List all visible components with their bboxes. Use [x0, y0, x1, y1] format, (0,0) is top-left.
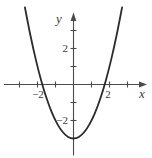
- y-tick-label-pos2: 2: [63, 43, 69, 54]
- x-tick-label-neg2: −2: [32, 89, 44, 100]
- plot-canvas: [0, 0, 152, 158]
- y-axis-arrowhead-icon: [71, 13, 77, 22]
- y-tick-label-neg2: −2: [56, 115, 68, 126]
- parabola-graph: y x −2 2 2 −2: [0, 0, 152, 158]
- y-axis-label: y: [56, 12, 62, 25]
- x-axis-label: x: [139, 87, 145, 100]
- x-tick-label-pos2: 2: [105, 89, 111, 100]
